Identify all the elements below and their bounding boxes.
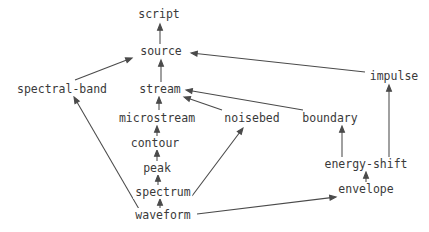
graph-canvas: scriptsourcespectral-bandstreamimpulsemi…: [0, 0, 429, 232]
arrowhead: [125, 58, 132, 63]
arrowhead: [157, 97, 162, 103]
node-stream[interactable]: stream: [137, 82, 183, 96]
node-spectrum[interactable]: spectrum: [133, 185, 192, 199]
edge-line: [196, 54, 365, 72]
edge-contour-to-microstream: [155, 126, 160, 136]
edge-source-to-script: [158, 24, 163, 44]
edge-energy-shift-to-impulse: [387, 85, 392, 157]
node-boundary[interactable]: boundary: [300, 111, 359, 125]
arrowhead: [387, 85, 392, 91]
edge-line: [197, 198, 331, 214]
edge-spectrum-to-peak: [156, 175, 161, 185]
arrowhead: [184, 97, 191, 102]
edge-spectral-band-to-source: [75, 58, 132, 80]
edges-layer: [0, 0, 429, 232]
edge-energy-shift-to-boundary: [340, 126, 345, 157]
edge-line: [191, 91, 303, 110]
node-spectral-band[interactable]: spectral-band: [15, 82, 109, 96]
node-noisebed[interactable]: noisebed: [222, 111, 281, 125]
node-script[interactable]: script: [136, 7, 182, 21]
node-contour[interactable]: contour: [129, 136, 181, 150]
node-envelope[interactable]: envelope: [336, 182, 395, 196]
arrowhead: [364, 172, 369, 178]
edge-noisebed-to-stream: [184, 97, 222, 110]
arrowhead: [340, 126, 345, 132]
node-source[interactable]: source: [138, 44, 184, 58]
arrowhead: [156, 175, 161, 181]
arrowhead: [191, 51, 197, 56]
arrowhead: [158, 199, 163, 205]
arrowhead: [330, 195, 336, 200]
edge-microstream-to-stream: [157, 97, 162, 110]
arrowhead: [155, 126, 160, 132]
node-energy-shift[interactable]: energy-shift: [322, 157, 409, 171]
arrowhead: [186, 89, 193, 94]
edge-envelope-to-energy-shift: [364, 172, 369, 182]
arrowhead: [74, 97, 79, 104]
node-peak[interactable]: peak: [141, 161, 173, 175]
edge-spectrum-to-noisebed: [192, 128, 243, 196]
node-waveform[interactable]: waveform: [133, 208, 192, 222]
edge-peak-to-contour: [155, 150, 160, 161]
node-microstream[interactable]: microstream: [117, 111, 197, 125]
arrowhead: [237, 128, 243, 134]
arrowhead: [159, 60, 164, 66]
edge-stream-to-source: [159, 60, 164, 82]
edge-boundary-to-stream: [186, 89, 303, 110]
edge-impulse-to-source: [191, 51, 365, 72]
edge-line: [189, 99, 222, 110]
arrowhead: [158, 24, 163, 30]
edge-waveform-to-envelope: [197, 195, 336, 214]
edge-waveform-to-spectrum: [158, 199, 163, 208]
node-impulse[interactable]: impulse: [368, 69, 420, 83]
arrowhead: [155, 150, 160, 156]
edge-line: [192, 132, 240, 196]
edge-line: [75, 60, 127, 80]
